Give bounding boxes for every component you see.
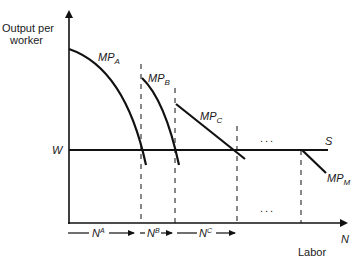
svg-text:MPC: MPC xyxy=(200,110,223,125)
mp-b-curve xyxy=(142,78,179,165)
x-axis-label: Labor xyxy=(298,246,326,258)
mp-c-label: MPC xyxy=(200,110,223,125)
y-axis-label-2: worker xyxy=(9,34,43,46)
x-axis-symbol: N xyxy=(341,233,349,245)
mp-m-curve xyxy=(302,150,326,173)
segment-b-label: NB xyxy=(147,227,160,239)
segment-a-label: NA xyxy=(92,227,105,239)
svg-text:MPB: MPB xyxy=(148,72,171,87)
supply-label: S xyxy=(325,135,333,147)
svg-text:MPM: MPM xyxy=(327,172,351,187)
labor-market-diagram: Output per worker W S MPA MPB MPC MPM ..… xyxy=(0,0,364,262)
y-axis-label: Output per xyxy=(2,22,54,34)
mp-b-label: MPB xyxy=(148,72,171,87)
mp-m-label: MPM xyxy=(327,172,351,187)
ellipsis-top: ... xyxy=(260,132,275,144)
svg-text:MPA: MPA xyxy=(98,51,120,66)
segment-c-label: NC xyxy=(199,227,213,239)
mp-a-label: MPA xyxy=(98,51,120,66)
wage-label: W xyxy=(52,144,64,156)
mp-a-curve xyxy=(69,49,146,165)
ellipsis-bottom: ... xyxy=(260,202,275,214)
